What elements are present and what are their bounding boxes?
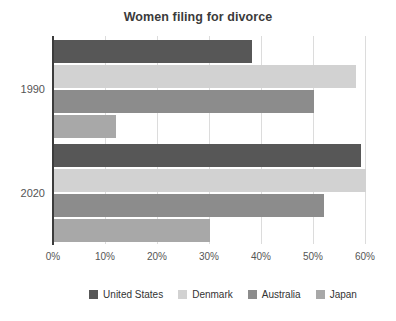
bar-2020-australia xyxy=(54,194,324,217)
plot-area: 199020200%10%20%30%40%50%60% xyxy=(53,36,375,244)
legend-swatch-icon xyxy=(316,290,325,299)
bar-1990-denmark xyxy=(54,65,356,88)
bar-2020-united-states xyxy=(54,144,361,167)
x-tick-label-60pct: 60% xyxy=(355,251,375,262)
bar-1990-japan xyxy=(54,115,116,138)
legend-label: United States xyxy=(103,289,163,300)
legend-label: Denmark xyxy=(192,289,233,300)
x-tick-label-10pct: 10% xyxy=(95,251,115,262)
x-tick-label-0pct: 0% xyxy=(46,251,60,262)
x-tick-label-50pct: 50% xyxy=(303,251,323,262)
chart-canvas: Women filing for divorce 199020200%10%20… xyxy=(0,0,396,321)
legend-label: Japan xyxy=(330,289,357,300)
legend-swatch-icon xyxy=(89,290,98,299)
x-tick-label-40pct: 40% xyxy=(251,251,271,262)
legend-swatch-icon xyxy=(248,290,257,299)
legend-swatch-icon xyxy=(178,290,187,299)
legend-item-united-states: United States xyxy=(89,289,163,300)
category-label-2020: 2020 xyxy=(5,187,45,199)
bar-1990-united-states xyxy=(54,40,252,63)
gridline-60 xyxy=(365,36,366,244)
legend-label: Australia xyxy=(262,289,301,300)
chart-title: Women filing for divorce xyxy=(0,10,396,24)
bar-1990-australia xyxy=(54,90,314,113)
category-label-1990: 1990 xyxy=(5,83,45,95)
legend: United StatesDenmarkAustraliaJapan xyxy=(50,289,396,300)
legend-item-denmark: Denmark xyxy=(178,289,233,300)
bar-2020-denmark xyxy=(54,169,366,192)
x-tick-label-30pct: 30% xyxy=(199,251,219,262)
legend-item-australia: Australia xyxy=(248,289,301,300)
bar-2020-japan xyxy=(54,219,210,242)
legend-item-japan: Japan xyxy=(316,289,357,300)
x-tick-label-20pct: 20% xyxy=(147,251,167,262)
